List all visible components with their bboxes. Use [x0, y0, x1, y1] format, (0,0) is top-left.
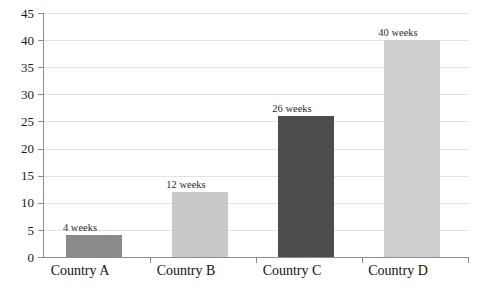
bar-country-b[interactable]	[172, 192, 228, 257]
bar-country-d[interactable]	[384, 40, 440, 257]
y-axis-tick-label: 25	[0, 115, 34, 128]
bar-country-a[interactable]	[66, 235, 122, 257]
bar-value-label-country-c: 26 weeks	[252, 103, 332, 114]
y-axis-tick-label: 40	[0, 34, 34, 47]
y-axis-tick-label: 45	[0, 7, 34, 20]
bar-value-label-country-a: 4 weeks	[40, 222, 120, 233]
y-axis-tick-label: 20	[0, 142, 34, 155]
y-axis-tick-label: 10	[0, 196, 34, 209]
y-axis-tick-label: 30	[0, 88, 34, 101]
bar-value-label-country-b: 12 weeks	[146, 179, 226, 190]
y-axis-tick-label: 15	[0, 169, 34, 182]
y-axis-tick-label: 35	[0, 61, 34, 74]
bar-country-c[interactable]	[278, 116, 334, 257]
bar-value-label-country-d: 40 weeks	[358, 27, 438, 38]
y-axis-tick-label: 5	[0, 224, 34, 237]
x-axis-category-label-country-d: Country D	[344, 263, 452, 279]
x-axis-category-label-country-b: Country B	[132, 263, 240, 279]
bar-chart: 45 40 35 30 25 20 15 10 5 0 4 weeks	[0, 0, 481, 295]
x-axis-category-label-country-a: Country A	[26, 263, 134, 279]
x-axis-tick-mark	[468, 258, 469, 263]
gridline	[44, 13, 468, 14]
plot-area	[44, 13, 468, 257]
x-axis-category-label-country-c: Country C	[238, 263, 346, 279]
